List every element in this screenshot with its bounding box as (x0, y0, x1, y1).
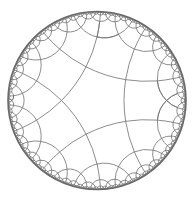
geodesic-edge (166, 51, 168, 56)
geodesic-edge (14, 122, 16, 125)
geodesic-edge (58, 23, 60, 28)
geodesic-edge (86, 182, 93, 184)
tiling-canvas (0, 0, 195, 201)
geodesic-edge (40, 38, 48, 41)
geodesic-edge (81, 164, 97, 174)
geodesic-edge (141, 166, 144, 171)
geodesic-edge (37, 81, 62, 101)
geodesic-edge (23, 81, 37, 93)
geodesic-edge (86, 37, 97, 67)
geodesic-edge (167, 146, 170, 148)
geodesic-edge (23, 57, 28, 59)
geodesic-edge (18, 135, 23, 136)
geodesic-edge (134, 152, 141, 166)
geodesic-edge (11, 92, 13, 96)
geodesic-edge (171, 60, 172, 65)
geodesic-edge (67, 23, 68, 32)
geodesic-edge (136, 166, 141, 173)
geodesic-edge (25, 148, 27, 150)
geodesic-edge (86, 121, 126, 134)
geodesic-edge (51, 170, 52, 174)
geodesic-edge (67, 178, 71, 181)
geodesic-edge (36, 39, 40, 40)
geodesic-edge (12, 115, 16, 117)
geodesic-edge (153, 41, 154, 51)
geodesic-edge (37, 101, 62, 121)
geodesic-edge (100, 15, 101, 21)
geodesic-edge (121, 182, 123, 184)
poincare-disk-tiling (0, 0, 195, 201)
geodesic-edge (153, 48, 162, 51)
geodesic-edge (27, 48, 30, 49)
geodesic-edge (149, 34, 153, 36)
geodesic-edge (33, 154, 36, 158)
geodesic-edge (30, 47, 36, 48)
geodesic-edge (23, 73, 37, 80)
geodesic-edge (171, 136, 175, 137)
geodesic-edge (18, 65, 23, 66)
geodesic-edge (178, 86, 182, 87)
geodesic-edge (141, 29, 144, 34)
geodesic-edge (71, 181, 76, 182)
geodesic-edge (20, 136, 23, 140)
geodesic-edge (166, 150, 167, 153)
geodesic-edge (125, 21, 128, 27)
geodesic-edge (167, 144, 171, 146)
geodesic-edge (62, 178, 66, 179)
geodesic-edge (171, 130, 174, 136)
geodesic-edge (15, 128, 17, 130)
geodesic-edge (108, 19, 115, 22)
geodesic-edge (71, 17, 72, 20)
geodesic-edge (71, 20, 76, 21)
geodesic-edge (115, 22, 118, 35)
geodesic-edge (23, 93, 25, 107)
geodesic-edge (171, 65, 174, 71)
geodesic-edge (175, 68, 178, 71)
geodesic-edge (16, 115, 17, 122)
geodesic-edge (59, 178, 62, 180)
geodesic-edge (13, 121, 17, 122)
geodesic-edge (14, 105, 23, 107)
geodesic-edge (86, 182, 87, 186)
geodesic-edge (108, 15, 111, 19)
geodesic-edge (154, 160, 156, 164)
geodesic-edge (162, 153, 165, 155)
geodesic-edge (48, 152, 59, 163)
geodesic-edge (58, 28, 67, 32)
geodesic-edge (23, 108, 37, 120)
geodesic-edge (69, 18, 71, 20)
geodesic-edge (129, 26, 137, 28)
geodesic-edge (76, 174, 81, 182)
geodesic-edge (67, 27, 81, 32)
geodesic-edge (71, 181, 72, 184)
geodesic-edge (16, 86, 23, 94)
geodesic-edge (41, 141, 60, 152)
geodesic-edge (48, 31, 51, 38)
geodesic-edge (173, 77, 179, 78)
geodesic-edge (44, 31, 45, 34)
geodesic-edge (162, 55, 168, 62)
geodesic-edge (129, 22, 132, 26)
geodesic-edge (60, 49, 86, 67)
geodesic-edge (17, 73, 23, 78)
geodesic-edge (23, 142, 28, 144)
geodesic-edge (143, 172, 145, 175)
geodesic-edge (93, 14, 95, 17)
geodesic-edge (86, 15, 87, 19)
geodesic-edge (118, 167, 128, 175)
geodesic-edge (69, 181, 71, 183)
geodesic-edge (153, 150, 162, 153)
geodesic-edge (44, 33, 48, 38)
geodesic-edge (86, 134, 97, 164)
geodesic-edge (121, 180, 125, 182)
geodesic-edge (55, 25, 58, 28)
geodesic-edge (141, 165, 149, 166)
geodesic-edge (157, 120, 173, 122)
geodesic-edge (10, 99, 12, 100)
geodesic-edge (36, 160, 40, 161)
geodesic-edge (159, 158, 161, 160)
geodesic-edge (37, 60, 42, 81)
geodesic-edge (106, 182, 108, 186)
geodesic-edge (157, 79, 173, 81)
geodesic-edge (125, 175, 128, 181)
